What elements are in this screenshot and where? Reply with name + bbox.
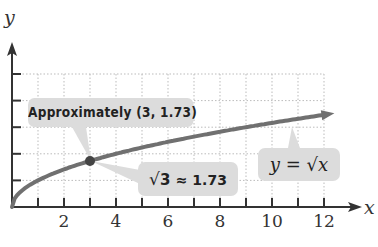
callout-sqrt3: √3 ≈ 1.73: [138, 162, 238, 196]
radicand: 3: [160, 163, 170, 197]
radical-sign: √: [307, 148, 318, 181]
x-tick-label: 10: [261, 211, 283, 231]
x-tick-label: 8: [215, 211, 226, 231]
x-tick-label: 2: [59, 211, 70, 231]
function-lhs: y =: [270, 154, 301, 175]
callout-function-label: y = √x: [258, 148, 340, 181]
curve-arrow-icon: [321, 110, 335, 120]
callout-approximate-point: Approximately (3, 1.73): [28, 98, 194, 127]
x-tick-label: 6: [163, 211, 174, 231]
x-tick-label: 12: [313, 211, 335, 231]
highlighted-point: [85, 156, 95, 166]
sqrt3-value: ≈ 1.73: [176, 172, 227, 188]
x-axis-label: x: [364, 196, 375, 218]
callout-pointer-approx: [72, 127, 91, 161]
x-tick-label: 4: [111, 211, 122, 231]
y-axis-label: y: [4, 6, 15, 28]
function-radicand: x: [318, 148, 328, 181]
callout-pointer-sqrt3: [91, 161, 140, 184]
radical-sign: √: [149, 162, 160, 196]
callout-approximate-text: Approximately (3, 1.73): [28, 104, 197, 120]
